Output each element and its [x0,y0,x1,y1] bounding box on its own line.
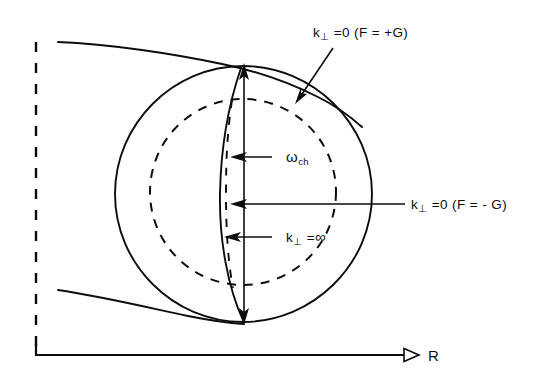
resonance-surface-circle [150,99,336,285]
k-infinity-label: k⊥ =∞ [286,228,326,247]
top-annotation-perp: ⊥ [320,31,329,42]
omega-subscript: ch [298,156,309,167]
omega-annotation-group: ωch [230,148,309,167]
right-annotation-group: k⊥ =0 (F = - G) [230,197,507,214]
omega-annotation-label: ωch [286,148,309,167]
axis-label-r: R [428,347,439,364]
right-annotation-perp: ⊥ [418,203,427,214]
r-axis-arrowhead [404,349,419,362]
upper-ray-group [58,42,362,127]
k-infinity-annotation-group: k⊥ =∞ [224,228,326,247]
dashed-inner-chord [226,100,233,288]
upper-ray-trajectory [58,42,362,127]
k-infinity-perp: ⊥ [293,236,302,247]
k-infinity-symbol: ∞ [315,228,326,245]
right-annotation-rest: =0 (F = - G) [428,197,507,212]
top-annotation-rest: =0 (F = +G) [330,25,409,40]
right-annotation-k: k [411,197,418,212]
k-infinity-k: k [286,230,293,245]
top-annotation-group: k⊥ =0 (F = +G) [295,25,408,104]
top-annotation-k: k [313,25,320,40]
schematic-diagram: R [0,0,549,386]
omega-symbol: ω [286,148,298,165]
dashed-chord-group [226,100,233,288]
top-annotation-label: k⊥ =0 (F = +G) [313,25,408,42]
figure-root: R [0,0,549,386]
right-annotation-label: k⊥ =0 (F = - G) [411,197,507,214]
inner-circle-group [150,99,336,285]
k-infinity-rest: = [303,230,315,245]
